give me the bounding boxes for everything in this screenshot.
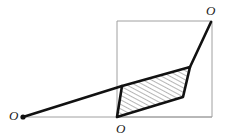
- origin-label-bottom: O: [116, 122, 125, 135]
- origin-label-top: O: [206, 4, 215, 17]
- right-heavy-ray: [190, 22, 211, 67]
- geometry-figure: O O O: [0, 0, 226, 140]
- upper-heavy-ray: [23, 86, 122, 117]
- origin-label-left: O: [9, 109, 18, 122]
- left-origin-dot: [20, 114, 25, 119]
- figure-canvas: [0, 0, 226, 140]
